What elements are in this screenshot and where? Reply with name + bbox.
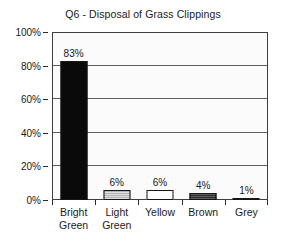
bar[interactable] — [60, 61, 87, 200]
y-axis: 0%20%40%60%80%100% — [0, 32, 48, 200]
bar-group[interactable]: 1% — [225, 32, 268, 200]
y-axis-tick-mark — [43, 200, 48, 201]
bar-group[interactable]: 6% — [138, 32, 181, 200]
chart-title: Q6 - Disposal of Grass Clippings — [0, 8, 286, 20]
y-axis-tick-label: 20% — [21, 161, 41, 172]
x-axis: BrightGreenLightGreenYellowBrownGrey — [52, 200, 268, 243]
bar-chart: Q6 - Disposal of Grass Clippings 0%20%40… — [0, 0, 286, 243]
y-axis-tick-mark — [43, 133, 48, 134]
x-axis-category-label: Yellow — [145, 206, 175, 219]
bar-group[interactable]: 4% — [182, 32, 225, 200]
bars-layer: 83%6%6%4%1% — [52, 32, 268, 200]
bar-value-label: 6% — [153, 177, 167, 188]
y-axis-tick-label: 100% — [15, 27, 41, 38]
x-axis-tick-mark — [182, 200, 183, 205]
y-axis-tick-label: 0% — [27, 195, 41, 206]
bar[interactable] — [146, 190, 173, 200]
bar-value-label: 4% — [196, 180, 210, 191]
bar-group[interactable]: 6% — [95, 32, 138, 200]
x-axis-tick-mark — [225, 200, 226, 205]
y-axis-tick-label: 60% — [21, 94, 41, 105]
y-axis-tick-mark — [43, 99, 48, 100]
bar[interactable] — [103, 190, 130, 200]
y-axis-tick-label: 40% — [21, 127, 41, 138]
bar-value-label: 83% — [64, 48, 84, 59]
bar-group[interactable]: 83% — [52, 32, 95, 200]
x-axis-tick-mark — [267, 200, 268, 205]
x-axis-tick-mark — [138, 200, 139, 205]
y-axis-tick-mark — [43, 32, 48, 33]
x-axis-tick-mark — [52, 200, 53, 205]
y-axis-tick-label: 80% — [21, 60, 41, 71]
y-axis-tick-mark — [43, 166, 48, 167]
bar-value-label: 1% — [239, 185, 253, 196]
bar-value-label: 6% — [110, 177, 124, 188]
x-axis-category-label: Grey — [235, 206, 258, 219]
x-axis-category-label: BrightGreen — [59, 206, 88, 231]
x-axis-tick-mark — [95, 200, 96, 205]
y-axis-tick-mark — [43, 66, 48, 67]
x-axis-category-label: Brown — [188, 206, 218, 219]
x-axis-category-label: LightGreen — [102, 206, 131, 231]
bar[interactable] — [190, 193, 217, 200]
